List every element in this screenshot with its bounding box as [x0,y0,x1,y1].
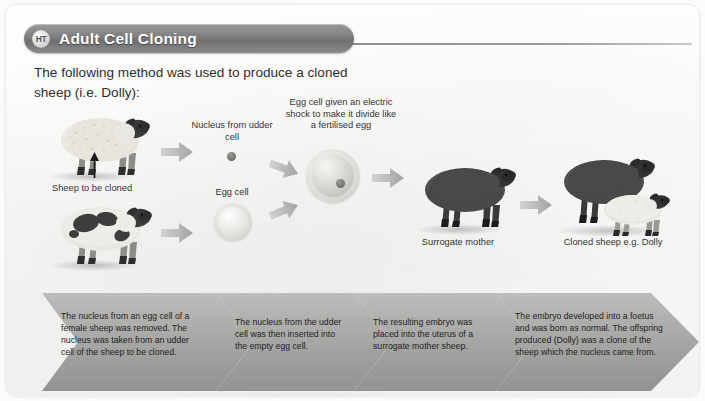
step-text-4: The embryo developed into a foetus and w… [515,311,666,359]
page-card: HT Adult Cell Cloning The following meth… [6,5,699,396]
egg-donor-sheep-figure [44,202,154,268]
label-nucleus-from-udder-cell: Nucleus from udder cell [186,120,278,143]
section-title-pill: HT Adult Cell Cloning [24,24,354,53]
inserted-nucleus-dot [336,179,345,188]
step-text-1: The nucleus from an egg cell of a female… [61,311,202,359]
process-steps-banner-row: The nucleus from an egg cell of a female… [6,287,699,396]
surrogate-mother-figure [410,163,516,231]
flow-arrow-surrogate-to-clone [520,195,552,215]
flow-arrow-sheep-to-eggcell [161,223,193,243]
label-cloned-sheep: Cloned sheep e.g. Dolly [533,237,693,249]
flow-arrow-nucleus-into-egg [269,159,299,178]
label-egg-cell: Egg cell [194,187,270,199]
step-text-3: The resulting embryo was placed into the… [373,317,489,353]
worksheet-page: HT Adult Cell Cloning The following meth… [0,0,705,401]
header-rule [344,43,692,45]
flow-arrow-udder-to-nucleus [161,142,193,162]
cloned-lamb-dolly-figure [592,191,672,241]
flow-arrow-embryo-to-surrogate [372,168,404,188]
page-title: Adult Cell Cloning [59,30,197,48]
higher-tier-badge: HT [32,30,50,48]
egg-cell-figure [214,203,252,241]
flow-arrow-eggcell-up [269,201,299,220]
label-sheep-to-be-cloned: Sheep to be cloned [30,183,154,195]
fertilised-egg-cytoplasm [312,155,354,197]
label-electric-shock: Egg cell given an electric shock to make… [283,97,399,132]
label-surrogate-mother: Surrogate mother [406,237,510,249]
nucleus-dot [227,152,236,161]
udder-pointer-arrow [89,152,100,182]
step-text-2: The nucleus from the udder cell was then… [235,317,345,353]
egg-cell-cytoplasm [218,207,248,237]
fertilised-egg-figure [306,149,360,203]
